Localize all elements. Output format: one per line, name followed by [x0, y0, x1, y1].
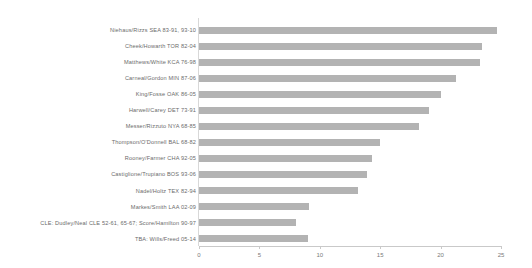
bar-row: Thompson/O'Donnell BAL 68-82	[0, 134, 532, 150]
bar-category-label: Cheek/Howarth TOR 82-04	[0, 42, 196, 50]
bar-row: Harwell/Carey DET 73-91	[0, 102, 532, 118]
bar	[199, 171, 367, 178]
x-axis-tick	[320, 246, 321, 249]
bar	[199, 27, 497, 34]
x-axis-tick-label: 25	[498, 251, 505, 259]
x-axis-tick	[199, 246, 200, 249]
bar-row: Rooney/Farmer CHA 92-05	[0, 150, 532, 166]
bar	[199, 187, 358, 194]
x-axis-tick	[441, 246, 442, 249]
bar-category-label: Markes/Smith LAA 02-09	[0, 203, 196, 211]
bar-category-label: King/Fosse OAK 86-05	[0, 90, 196, 98]
bar	[199, 235, 308, 242]
x-axis-tick-label: 15	[377, 251, 384, 259]
bar-category-label: Nadel/Holtz TEX 82-94	[0, 187, 196, 195]
bar-row: TBA: Wills/Freed 05-14	[0, 231, 532, 247]
bar-category-label: Carneal/Gordon MIN 87-06	[0, 74, 196, 82]
bar-row: King/Fosse OAK 86-05	[0, 86, 532, 102]
x-axis-tick	[259, 246, 260, 249]
bar-category-label: Matthews/White KCA 76-98	[0, 58, 196, 66]
bar	[199, 91, 441, 98]
bar-category-label: TBA: Wills/Freed 05-14	[0, 235, 196, 243]
x-axis-tick-label: 10	[316, 251, 323, 259]
bar-row: Messer/Rizzuto NYA 68-85	[0, 118, 532, 134]
horizontal-bar-chart: Niehaus/Rizzs SEA 83-91, 93-10Cheek/Howa…	[0, 0, 532, 268]
bar	[199, 75, 456, 82]
bar	[199, 107, 429, 114]
x-axis-tick	[501, 246, 502, 249]
bar-category-label: Messer/Rizzuto NYA 68-85	[0, 122, 196, 130]
bar-category-label: Thompson/O'Donnell BAL 68-82	[0, 138, 196, 146]
bar-row: Matthews/White KCA 76-98	[0, 54, 532, 70]
bar	[199, 59, 480, 66]
bar-row: CLE: Dudley/Neal CLE 52-61, 65-67; Score…	[0, 215, 532, 231]
x-axis-tick-label: 0	[197, 251, 200, 259]
bar-row: Nadel/Holtz TEX 82-94	[0, 183, 532, 199]
bar-category-label: Castiglione/Trupiano BOS 93-06	[0, 170, 196, 178]
bar-row: Markes/Smith LAA 02-09	[0, 199, 532, 215]
bar-row: Cheek/Howarth TOR 82-04	[0, 38, 532, 54]
bar	[199, 139, 380, 146]
bar	[199, 43, 482, 50]
bar	[199, 155, 372, 162]
bar-category-label: Harwell/Carey DET 73-91	[0, 106, 196, 114]
bar	[199, 219, 296, 226]
bar-row: Niehaus/Rizzs SEA 83-91, 93-10	[0, 22, 532, 38]
x-axis-tick-label: 5	[258, 251, 261, 259]
x-axis-tick	[380, 246, 381, 249]
bar-category-label: Rooney/Farmer CHA 92-05	[0, 154, 196, 162]
bar	[199, 123, 419, 130]
bar	[199, 203, 309, 210]
bar-row: Carneal/Gordon MIN 87-06	[0, 70, 532, 86]
bar-category-label: Niehaus/Rizzs SEA 83-91, 93-10	[0, 26, 196, 34]
bar-category-label: CLE: Dudley/Neal CLE 52-61, 65-67; Score…	[0, 219, 196, 227]
bar-row: Castiglione/Trupiano BOS 93-06	[0, 166, 532, 182]
plot-area: Niehaus/Rizzs SEA 83-91, 93-10Cheek/Howa…	[0, 0, 532, 268]
x-axis-tick-label: 20	[437, 251, 444, 259]
